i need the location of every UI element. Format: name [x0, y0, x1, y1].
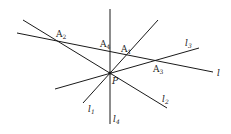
line-label-l4: l4: [113, 114, 120, 125]
line-label-l3: l3: [185, 38, 192, 49]
point-label-a2: A2: [55, 29, 67, 40]
point-p-label: P: [111, 76, 119, 86]
lines-group: [17, 9, 213, 124]
diagram-canvas: ll1l2l3l4A1A2A3A4 P: [0, 0, 231, 134]
point-label-a3: A3: [152, 64, 164, 75]
line-label-l1: l1: [88, 104, 95, 115]
point-label-a1: A1: [120, 44, 131, 55]
line-label-l2: l2: [162, 94, 169, 105]
point-label-a4: A4: [99, 39, 111, 50]
line-label-l: l: [217, 68, 220, 78]
point-p-dot: [108, 71, 111, 74]
line-l1: [83, 20, 158, 103]
